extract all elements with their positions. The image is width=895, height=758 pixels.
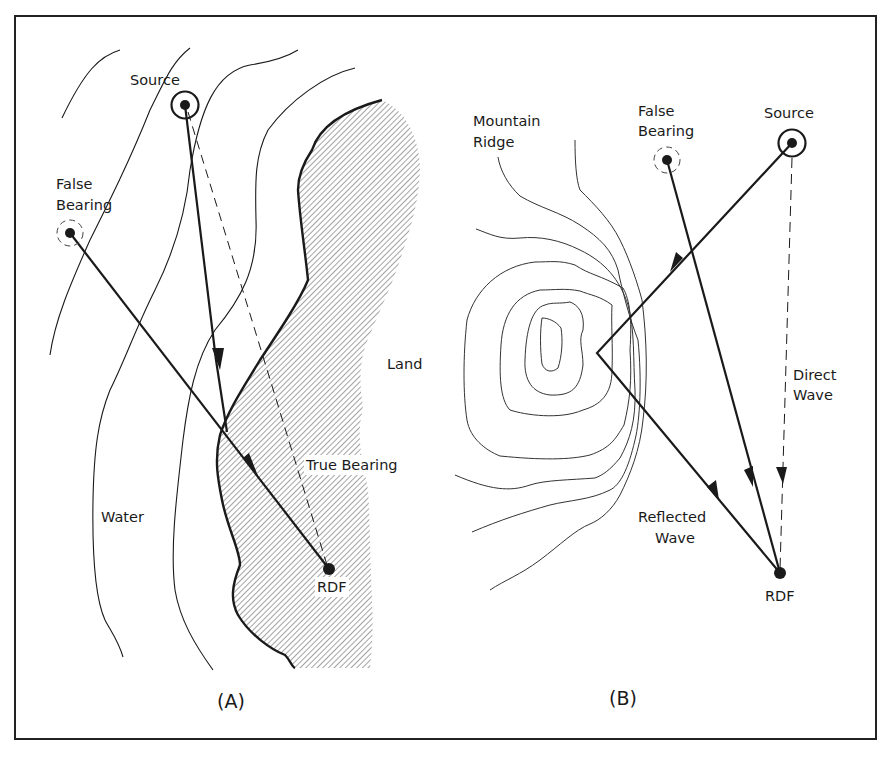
panel-b — [455, 130, 806, 591]
caption-a: (A) — [217, 690, 245, 712]
label-source-b: Source — [764, 103, 814, 123]
label-reflected-wave-2: Wave — [655, 528, 695, 548]
label-rdf-a: RDF — [315, 577, 349, 597]
direct-wave-line — [780, 158, 792, 570]
label-land: Land — [387, 354, 422, 374]
rdf-icon-b — [774, 567, 786, 579]
label-mountain-ridge-2: Ridge — [473, 132, 514, 152]
label-false-bearing-a-2: Bearing — [56, 195, 112, 215]
source-icon — [172, 92, 199, 119]
source-icon-b — [779, 130, 806, 157]
label-mountain-ridge-1: Mountain — [473, 111, 541, 131]
panel-a — [50, 48, 420, 670]
false-bearing-icon — [57, 220, 83, 246]
rdf-icon — [323, 563, 335, 575]
label-direct-wave-2: Wave — [793, 385, 833, 405]
mountain-contours — [455, 140, 646, 590]
source-ray — [185, 105, 227, 432]
label-water: Water — [101, 507, 144, 527]
label-source-a: Source — [130, 70, 180, 90]
label-false-bearing-a-1: False — [56, 174, 92, 194]
label-false-bearing-b-1: False — [638, 101, 674, 121]
caption-b: (B) — [609, 687, 637, 709]
label-reflected-wave-1: Reflected — [638, 507, 706, 527]
label-direct-wave-1: Direct — [793, 365, 836, 385]
label-true-bearing: True Bearing — [304, 455, 400, 475]
label-false-bearing-b-2: Bearing — [638, 121, 694, 141]
label-rdf-b: RDF — [765, 586, 795, 606]
false-bearing-icon-b — [654, 147, 680, 173]
diagram-canvas — [0, 0, 895, 758]
